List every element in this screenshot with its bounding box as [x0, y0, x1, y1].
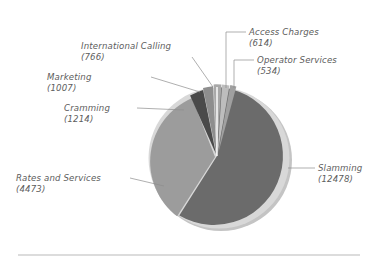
label-operator-services-value: (534)	[257, 66, 281, 76]
label-international-calling-name: International Calling	[81, 41, 172, 51]
leader-line-operator-services	[234, 60, 254, 88]
label-rates-and-services-value: (4473)	[16, 184, 45, 194]
label-slamming-name: Slamming	[318, 163, 363, 173]
pie-chart-figure: Access Charges (614) Operator Services (…	[0, 0, 375, 267]
label-marketing-name: Marketing	[47, 72, 92, 82]
label-access-charges-name: Access Charges	[248, 27, 319, 37]
chart-canvas: Access Charges (614) Operator Services (…	[0, 0, 375, 267]
label-international-calling-value: (766)	[81, 52, 105, 62]
label-operator-services-name: Operator Services	[257, 55, 337, 65]
leader-line-marketing	[151, 77, 200, 92]
label-cramming-value: (1214)	[64, 114, 93, 124]
leader-line-international-calling	[192, 57, 213, 87]
label-access-charges-value: (614)	[249, 38, 273, 48]
label-marketing-value: (1007)	[47, 83, 76, 93]
label-cramming-name: Cramming	[64, 103, 110, 113]
label-slamming-value: (12478)	[318, 174, 353, 184]
label-rates-and-services-name: Rates and Services	[16, 173, 101, 183]
